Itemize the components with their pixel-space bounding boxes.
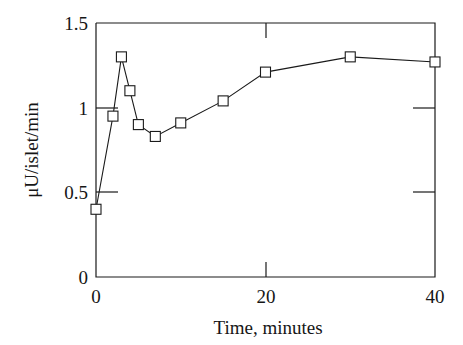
y-tick-label-1.5: 1.5: [64, 13, 88, 34]
axis-frame: [96, 23, 435, 277]
y-tick-label-0: 0: [79, 267, 89, 288]
data-point-marker: [91, 204, 101, 214]
chart-figure: 1.5 1 0.5 0 0 20 40 Time, minutes μU/isl…: [0, 0, 463, 345]
data-point-marker: [218, 96, 228, 106]
x-tick-label-20: 20: [257, 286, 276, 307]
data-series-layer: [91, 52, 440, 214]
data-point-marker: [133, 120, 143, 130]
data-point-marker: [430, 57, 440, 67]
x-tick-labels: 0 20 40: [91, 286, 444, 307]
line-chart: 1.5 1 0.5 0 0 20 40 Time, minutes μU/isl…: [0, 0, 463, 345]
data-point-marker: [108, 111, 118, 121]
x-axis-title: Time, minutes: [213, 317, 322, 338]
data-point-marker: [345, 52, 355, 62]
y-tick-marks: [96, 108, 435, 192]
series-line-0: [96, 57, 435, 209]
x-tick-label-40: 40: [426, 286, 445, 307]
y-tick-label-1: 1: [79, 98, 89, 119]
data-point-marker: [116, 52, 126, 62]
y-tick-labels: 1.5 1 0.5 0: [64, 13, 88, 288]
data-point-marker: [125, 86, 135, 96]
y-tick-label-0.5: 0.5: [64, 182, 88, 203]
data-point-marker: [176, 118, 186, 128]
y-axis-title: μU/islet/min: [21, 102, 42, 198]
data-point-marker: [150, 131, 160, 141]
data-point-marker: [261, 67, 271, 77]
x-tick-label-0: 0: [91, 286, 101, 307]
